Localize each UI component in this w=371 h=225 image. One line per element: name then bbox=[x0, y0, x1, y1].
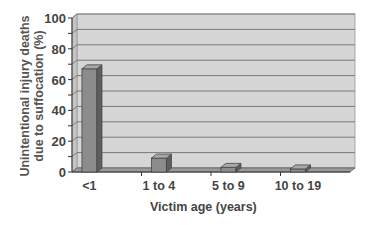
bar-front bbox=[82, 69, 97, 172]
y-axis-label: Unintentional injury deaths due to suffo… bbox=[18, 6, 46, 186]
chart-floor bbox=[72, 168, 355, 172]
y-tick-label: 0 bbox=[59, 165, 66, 180]
bar-side bbox=[97, 65, 102, 172]
x-tick-label: 5 to 9 bbox=[212, 179, 245, 193]
y-axis-label-line-2: due to suffocation (%) bbox=[32, 6, 46, 186]
x-tick-label: 10 to 19 bbox=[275, 179, 322, 193]
y-tick-label: 100 bbox=[44, 11, 66, 26]
bar-chart: 020406080100<11 to 45 to 910 to 19 bbox=[0, 0, 371, 225]
y-tick-label: 20 bbox=[52, 134, 66, 149]
y-axis-label-line-1: Unintentional injury deaths bbox=[18, 6, 32, 186]
x-axis-label: Victim age (years) bbox=[150, 200, 257, 214]
bar-front bbox=[290, 169, 305, 172]
y-tick-label: 80 bbox=[52, 42, 66, 57]
y-tick-label: 40 bbox=[52, 103, 66, 118]
x-tick-label: <1 bbox=[82, 179, 96, 193]
x-tick-label: 1 to 4 bbox=[143, 179, 176, 193]
bar-front bbox=[221, 167, 236, 172]
bar-front bbox=[151, 158, 166, 172]
y-tick-label: 60 bbox=[52, 73, 66, 88]
